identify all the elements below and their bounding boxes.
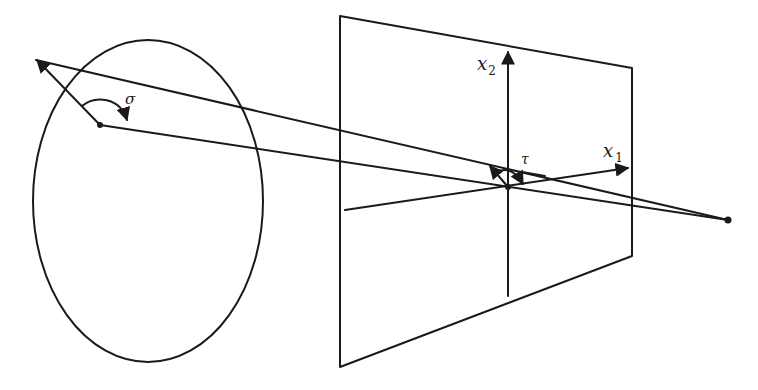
sphere-ellipse	[33, 40, 263, 362]
projection-ray-outer	[36, 60, 728, 220]
x2-label: x2	[477, 53, 496, 78]
x2-label-base: x	[477, 53, 487, 74]
sigma-angle-arc	[82, 100, 127, 120]
origin-point	[505, 184, 511, 190]
x1-label-base: x	[603, 140, 613, 161]
x1-label-sub: 1	[615, 151, 623, 165]
x1-axis	[345, 168, 628, 210]
sphere-point	[97, 122, 103, 128]
projection-ray-inner	[100, 125, 728, 220]
tau-label: τ	[521, 151, 529, 167]
x2-label-sub: 2	[488, 64, 496, 78]
sigma-label: σ	[125, 90, 136, 108]
projection-center-point	[725, 217, 732, 224]
projection-diagram: σ τ x2 x1	[0, 0, 758, 390]
x1-label: x1	[603, 140, 623, 165]
sphere-vector	[37, 60, 100, 125]
